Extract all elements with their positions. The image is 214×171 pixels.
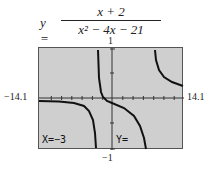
curve-right-branch — [155, 50, 183, 86]
calculator-screen: X=−3 Y= — [38, 47, 183, 149]
equation-numerator: x + 2 — [61, 4, 161, 19]
ymax-label: 1 — [108, 35, 113, 46]
y-readout: Y= — [116, 134, 128, 145]
fraction-bar — [61, 20, 161, 21]
xmax-label: 14.1 — [187, 91, 205, 102]
xmin-label: −14.1 — [4, 91, 27, 102]
x-readout: X=−3 — [42, 134, 66, 145]
equation-fraction: x + 2 x² − 4x − 21 — [61, 4, 161, 38]
ymin-label: −1 — [102, 152, 113, 163]
equation-lhs: y = — [40, 15, 49, 47]
